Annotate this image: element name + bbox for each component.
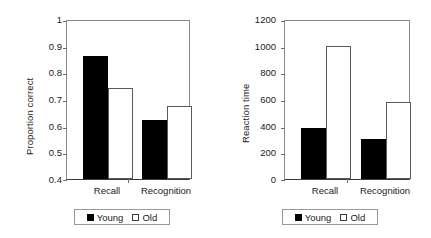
bar-young-recall bbox=[83, 56, 108, 179]
x-category-label-recognition: Recognition bbox=[360, 185, 410, 196]
bar-old-recall bbox=[108, 88, 133, 179]
legend-entry-old: Old bbox=[340, 212, 365, 223]
y-tick-label: 0.9 bbox=[28, 42, 62, 52]
plot-area-left bbox=[66, 20, 190, 180]
x-category-label-recognition: Recognition bbox=[141, 185, 191, 196]
y-axis-tick bbox=[63, 21, 67, 22]
legend-entry-young: Young bbox=[87, 212, 124, 223]
y-tick-label: 1200 bbox=[242, 15, 276, 25]
y-axis-tick bbox=[281, 48, 285, 49]
bar-young-recognition bbox=[361, 139, 386, 179]
plot-area-right bbox=[284, 20, 410, 180]
bar-old-recognition bbox=[386, 102, 411, 179]
y-axis-tick bbox=[281, 21, 285, 22]
y-tick-label: 400 bbox=[242, 122, 276, 132]
legend-swatch-old-icon bbox=[132, 214, 139, 221]
y-axis-tick bbox=[63, 128, 67, 129]
y-tick-label: 0.4 bbox=[28, 175, 62, 185]
y-tick-label: 0 bbox=[242, 175, 276, 185]
y-tick-label: 800 bbox=[242, 69, 276, 79]
legend-swatch-old-icon bbox=[340, 214, 347, 221]
y-tick-label: 1000 bbox=[242, 42, 276, 52]
y-tick-label: 0.7 bbox=[28, 95, 62, 105]
bar-young-recognition bbox=[142, 120, 167, 179]
bar-old-recall bbox=[326, 46, 351, 179]
panel-reaction-time: Reaction time 1200 1000 800 600 400 200 … bbox=[216, 0, 431, 238]
y-tick-label: 200 bbox=[242, 149, 276, 159]
y-axis-title-left: Proportion correct bbox=[24, 78, 35, 155]
y-axis-tick bbox=[281, 74, 285, 75]
legend-left: Young Old bbox=[74, 209, 170, 225]
x-axis-tick bbox=[128, 179, 129, 183]
bar-old-recognition bbox=[167, 106, 192, 179]
legend-swatch-young-icon bbox=[295, 214, 302, 221]
bar-young-recall bbox=[301, 128, 326, 179]
legend-label-old: Old bbox=[350, 212, 365, 223]
y-tick-label: 0.6 bbox=[28, 122, 62, 132]
legend-right: Young Old bbox=[282, 209, 378, 225]
legend-label-young: Young bbox=[305, 212, 332, 223]
y-axis-title-right: Reaction time bbox=[240, 84, 251, 143]
y-axis-tick bbox=[63, 101, 67, 102]
y-axis-tick bbox=[63, 180, 67, 181]
y-axis-tick bbox=[281, 180, 285, 181]
panel-proportion-correct: Proportion correct 1 0.9 0.8 0.7 0.6 0.5… bbox=[0, 0, 215, 238]
y-tick-label: 0.5 bbox=[28, 149, 62, 159]
legend-entry-young: Young bbox=[295, 212, 332, 223]
y-axis-tick bbox=[63, 74, 67, 75]
x-category-label-recall: Recall bbox=[94, 185, 120, 196]
legend-entry-old: Old bbox=[132, 212, 157, 223]
legend-swatch-young-icon bbox=[87, 214, 94, 221]
x-axis-tick bbox=[347, 179, 348, 183]
y-tick-label: 1 bbox=[28, 15, 62, 25]
figure-two-bar-charts: Proportion correct 1 0.9 0.8 0.7 0.6 0.5… bbox=[0, 0, 431, 238]
y-tick-label: 600 bbox=[242, 95, 276, 105]
legend-label-young: Young bbox=[97, 212, 124, 223]
y-tick-label: 0.8 bbox=[28, 69, 62, 79]
y-axis-tick bbox=[281, 101, 285, 102]
legend-label-old: Old bbox=[142, 212, 157, 223]
y-axis-tick bbox=[281, 128, 285, 129]
y-axis-tick bbox=[63, 154, 67, 155]
y-axis-tick bbox=[281, 154, 285, 155]
x-category-label-recall: Recall bbox=[312, 185, 338, 196]
y-axis-tick bbox=[63, 48, 67, 49]
